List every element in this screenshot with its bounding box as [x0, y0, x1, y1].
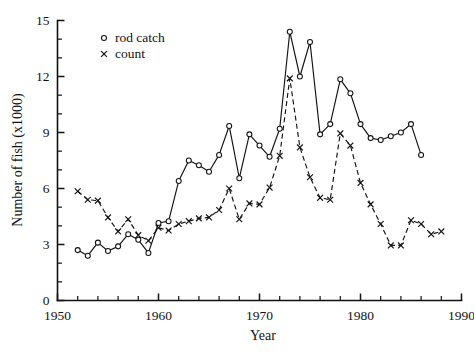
y-tick-label: 3 [43, 237, 50, 252]
y-axis-tick-labels: 03691215 [36, 13, 50, 308]
data-point-marker [307, 174, 313, 180]
series-line [78, 32, 421, 256]
data-point-marker [217, 152, 222, 157]
data-point-marker [438, 229, 444, 235]
data-point-marker [106, 249, 111, 254]
y-tick-label: 12 [36, 69, 50, 84]
data-point-marker [419, 152, 424, 157]
data-point-marker [136, 237, 141, 242]
data-point-marker [408, 217, 414, 223]
data-point-marker [146, 250, 151, 255]
data-point-marker [358, 122, 363, 127]
y-tick-label: 9 [43, 125, 50, 140]
x-tick-label: 1980 [347, 308, 374, 323]
legend-label: rod catch [115, 30, 165, 45]
data-point-marker [378, 221, 384, 227]
data-point-marker [237, 176, 242, 181]
x-tick-label: 1950 [44, 308, 71, 323]
x-tick-label: 1970 [246, 308, 273, 323]
data-point-marker [337, 131, 343, 137]
y-axis-ticks [58, 21, 65, 301]
series-line [78, 78, 442, 245]
legend-entry-rod-catch: rod catch [102, 30, 166, 45]
data-point-marker [196, 163, 201, 168]
data-point-marker [186, 158, 191, 163]
y-tick-label: 6 [43, 181, 50, 196]
data-point-marker [207, 169, 212, 174]
data-point-marker [105, 215, 111, 221]
data-point-marker [378, 137, 383, 142]
y-tick-label: 0 [43, 293, 50, 308]
data-point-marker [267, 185, 273, 191]
data-point-marker [308, 39, 313, 44]
series-count [75, 75, 444, 248]
data-point-marker [75, 248, 80, 253]
data-point-marker [176, 179, 181, 184]
chart-legend: rod catchcount [101, 30, 165, 61]
data-point-marker [428, 231, 434, 237]
data-point-marker [277, 126, 282, 131]
data-point-marker [257, 143, 262, 148]
series-rod-catch [75, 29, 423, 258]
data-point-marker [85, 197, 91, 203]
data-point-marker [226, 186, 232, 192]
data-point-marker [216, 207, 222, 213]
fish-counts-line-chart: 03691215 19501960197019801990 Number of … [0, 0, 474, 362]
x-axis-ticks [58, 294, 462, 301]
data-point-marker [115, 229, 121, 235]
data-point-marker [287, 29, 292, 34]
legend-label: count [115, 46, 145, 61]
data-point-marker [409, 122, 414, 127]
data-point-marker [125, 216, 131, 222]
data-point-marker [317, 195, 323, 201]
data-point-marker [348, 91, 353, 96]
data-point-marker [146, 238, 152, 244]
y-tick-label: 15 [36, 13, 50, 28]
legend-marker-cross-icon [101, 51, 107, 57]
data-point-marker [176, 221, 182, 227]
data-point-marker [328, 122, 333, 127]
data-point-marker [156, 221, 161, 226]
data-point-marker [95, 240, 100, 245]
x-axis-title: Year [250, 328, 276, 343]
data-point-marker [338, 77, 343, 82]
data-point-marker [297, 145, 303, 151]
data-point-marker [398, 130, 403, 135]
data-point-marker [227, 123, 232, 128]
data-point-marker [318, 132, 323, 137]
data-point-marker [247, 132, 252, 137]
axes [58, 21, 462, 301]
data-series-layer [75, 29, 444, 258]
legend-entry-count: count [101, 46, 145, 61]
data-point-marker [388, 134, 393, 139]
data-point-marker [116, 244, 121, 249]
data-point-marker [75, 188, 81, 194]
figure-container: 03691215 19501960197019801990 Number of … [0, 0, 474, 362]
y-axis-title: Number of fish (x1000) [10, 93, 26, 227]
data-point-marker [297, 74, 302, 79]
data-point-marker [166, 219, 171, 224]
data-point-marker [418, 221, 424, 227]
data-point-marker [85, 253, 90, 258]
x-axis-tick-labels: 19501960197019801990 [44, 308, 474, 323]
data-point-marker [267, 154, 272, 159]
data-point-marker [368, 136, 373, 141]
x-tick-label: 1960 [145, 308, 172, 323]
figure-caption [8, 353, 468, 362]
data-point-marker [368, 201, 374, 207]
data-point-marker [236, 216, 242, 222]
data-point-marker [126, 232, 131, 237]
x-tick-label: 1990 [448, 308, 474, 323]
legend-marker-circle-icon [102, 36, 107, 41]
